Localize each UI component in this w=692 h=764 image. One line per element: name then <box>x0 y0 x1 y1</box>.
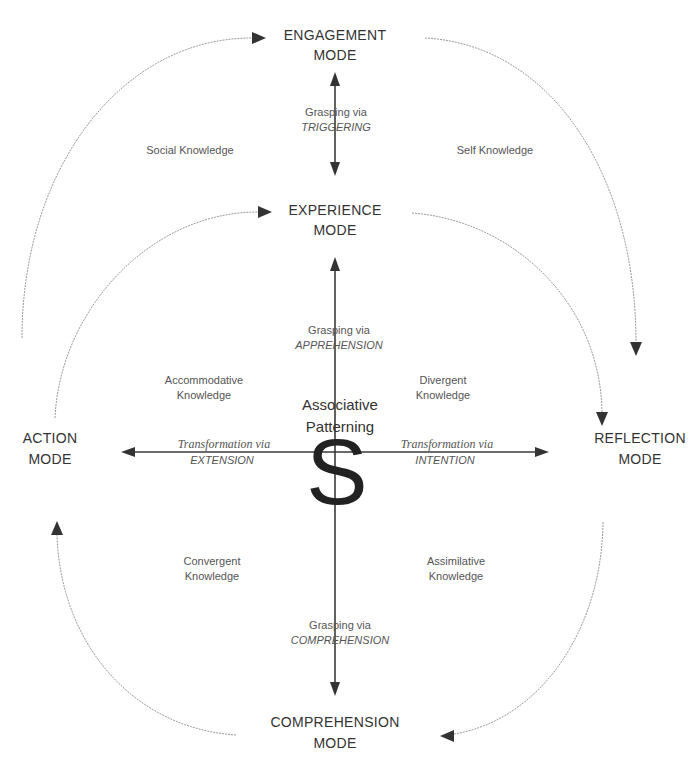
experience-mode-label: EXPERIENCE MODE <box>288 202 381 238</box>
svg-text:Assimilative: Assimilative <box>427 555 485 567</box>
arrowhead-down-icon <box>596 412 608 426</box>
svg-text:EXPERIENCE: EXPERIENCE <box>288 202 381 218</box>
self-knowledge-label: Self Knowledge <box>457 144 533 156</box>
bottom-arc-left <box>51 521 236 735</box>
inner-arc-left <box>55 206 272 418</box>
grasping-triggering-label: Grasping via TRIGGERING <box>301 106 371 133</box>
svg-text:MODE: MODE <box>28 451 71 467</box>
svg-text:MODE: MODE <box>313 47 356 63</box>
svg-text:REFLECTION: REFLECTION <box>594 430 686 446</box>
comprehension-mode-label: COMPREHENSION MODE <box>270 714 399 751</box>
svg-text:MODE: MODE <box>313 222 356 238</box>
svg-text:Knowledge: Knowledge <box>185 570 239 582</box>
svg-text:TRIGGERING: TRIGGERING <box>301 121 371 133</box>
svg-text:Patterning: Patterning <box>306 418 374 435</box>
svg-text:Associative: Associative <box>302 396 378 413</box>
outer-arc-left <box>22 32 266 338</box>
arrowhead-down-icon <box>630 342 642 356</box>
svg-text:Convergent: Convergent <box>184 555 241 567</box>
svg-text:Grasping via: Grasping via <box>309 619 372 631</box>
svg-text:Knowledge: Knowledge <box>416 389 470 401</box>
svg-text:Grasping via: Grasping via <box>308 324 371 336</box>
action-mode-label: ACTION MODE <box>23 430 78 467</box>
associative-patterning-label: Associative Patterning <box>302 396 378 435</box>
svg-text:APPREHENSION: APPREHENSION <box>294 339 382 351</box>
arrowhead-left-icon <box>440 730 454 742</box>
svg-text:Accommodative: Accommodative <box>165 374 243 386</box>
arrowhead-left-icon <box>121 447 135 457</box>
arrowhead-up-icon <box>330 72 340 86</box>
svg-text:MODE: MODE <box>618 451 661 467</box>
reflection-mode-label: REFLECTION MODE <box>594 430 686 467</box>
svg-text:Knowledge: Knowledge <box>177 389 231 401</box>
arrowhead-up-icon <box>330 257 340 271</box>
learning-modes-diagram: S ENGAGEMENT MODE EXPERIENCE MODE ACTION… <box>0 0 692 764</box>
assimilative-knowledge-label: Assimilative Knowledge <box>427 555 485 582</box>
svg-text:Knowledge: Knowledge <box>429 570 483 582</box>
svg-text:Divergent: Divergent <box>419 374 466 386</box>
divergent-knowledge-label: Divergent Knowledge <box>416 374 470 401</box>
center-symbol: S <box>306 421 367 523</box>
svg-text:EXTENSION: EXTENSION <box>190 454 254 466</box>
accommodative-knowledge-label: Accommodative Knowledge <box>165 374 243 401</box>
convergent-knowledge-label: Convergent Knowledge <box>184 555 241 582</box>
svg-text:Transformation via: Transformation via <box>178 437 270 451</box>
svg-text:COMPREHENSION: COMPREHENSION <box>270 714 399 730</box>
outer-arc-right <box>425 38 642 356</box>
grasping-apprehension-label: Grasping via APPREHENSION <box>294 324 382 351</box>
svg-text:ENGAGEMENT: ENGAGEMENT <box>284 27 387 43</box>
grasping-comprehension-label: Grasping via COMPREHENSION <box>291 619 389 646</box>
svg-text:MODE: MODE <box>313 735 356 751</box>
engagement-mode-label: ENGAGEMENT MODE <box>284 27 387 63</box>
arrowhead-down-icon <box>330 162 340 176</box>
arrowhead-right-icon <box>252 32 266 44</box>
arrowhead-right-icon <box>535 447 549 457</box>
svg-text:ACTION: ACTION <box>23 430 78 446</box>
arrowhead-down-icon <box>330 682 340 696</box>
arrowhead-up-icon <box>51 521 63 535</box>
svg-text:Transformation via: Transformation via <box>401 437 493 451</box>
svg-text:COMPREHENSION: COMPREHENSION <box>291 634 389 646</box>
svg-text:Grasping via: Grasping via <box>305 106 368 118</box>
social-knowledge-label: Social Knowledge <box>146 144 233 156</box>
svg-text:INTENTION: INTENTION <box>415 454 474 466</box>
arrowhead-right-icon <box>258 206 272 218</box>
